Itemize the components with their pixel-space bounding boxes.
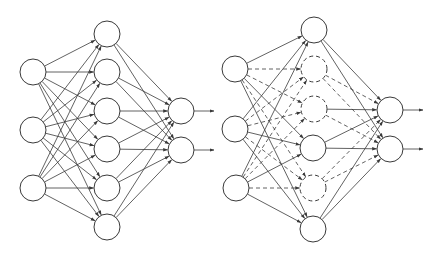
dropout-net-hidden-node-6 — [300, 216, 326, 242]
standard-net-edge-input2-hidden3 — [46, 114, 94, 126]
standard-net-hidden-node-2 — [94, 59, 120, 85]
dropout-net-hidden-node-1 — [301, 17, 327, 43]
dropout-net-hidden-node-5-dropped — [300, 175, 326, 201]
standard-net-hidden-node-6 — [94, 214, 120, 240]
dropout-net-input-node-2 — [222, 116, 248, 142]
dropout-net-edge-hidden6-output2 — [322, 159, 381, 220]
dropout-net-hidden-node-2-dropped — [301, 56, 327, 82]
standard-net-input-node-1 — [20, 59, 46, 85]
standard-net-edge-input1-hidden1 — [45, 40, 95, 66]
dropout-net-edge-input2-hidden3 — [248, 112, 301, 125]
dropout-net-hidden-node-3-dropped — [301, 96, 327, 122]
dropout-diagram: Standard neural net After applying dropo… — [0, 0, 435, 261]
dropout-net-edge-hidden6-output1 — [320, 121, 383, 218]
standard-net-output-node-1 — [168, 98, 194, 124]
dropout-net-edge-hidden1-output1 — [323, 39, 381, 100]
dropout-net-edge-input1-hidden1 — [247, 36, 302, 63]
nodes-layer — [20, 17, 403, 242]
standard-net-input-node-2 — [20, 117, 46, 143]
standard-net-edge-input3-hidden6 — [45, 194, 96, 221]
dropout-net-edge-input3-hidden6 — [247, 194, 301, 223]
dropout-net-edge-input2-hidden6 — [243, 139, 305, 218]
dropout-net-edge-input1-hidden4 — [244, 78, 303, 138]
standard-net-edge-input2-hidden4 — [46, 133, 94, 145]
dropout-net-hidden-node-4 — [300, 135, 326, 161]
standard-net-edge-hidden6-output1 — [114, 122, 174, 216]
standard-net-input-node-3 — [20, 175, 46, 201]
standard-net-hidden-node-5 — [94, 175, 120, 201]
dropout-net-edge-hidden2-output2 — [323, 78, 381, 139]
dropout-net-edge-input3-hidden3 — [245, 119, 304, 179]
standard-net-edge-hidden6-output2 — [116, 160, 172, 218]
dropout-net-output-node-1 — [377, 97, 403, 123]
standard-net-edge-hidden1-output1 — [116, 43, 172, 101]
dropout-net-edge-hidden4-output2 — [326, 148, 377, 149]
standard-net-hidden-node-1 — [94, 21, 120, 47]
standard-net-edge-hidden2-output1 — [119, 78, 170, 105]
network-canvas — [0, 0, 435, 261]
dropout-net-edge-input2-hidden4 — [248, 132, 300, 145]
standard-net-edge-input2-hidden6 — [41, 140, 99, 216]
standard-net-edge-input2-hidden1 — [41, 45, 99, 120]
dropout-net-output-node-2 — [377, 136, 403, 162]
standard-net-hidden-node-4 — [94, 136, 120, 162]
standard-net-hidden-node-3 — [94, 98, 120, 124]
dropout-net-edge-input1-hidden5 — [242, 80, 305, 177]
dropout-net-input-node-3 — [223, 175, 249, 201]
dropout-net-edge-input3-hidden1 — [242, 42, 308, 176]
dropout-net-edge-input2-hidden1 — [243, 41, 305, 119]
dropout-net-edge-input3-hidden2 — [243, 80, 306, 177]
dropout-net-input-node-1 — [222, 56, 248, 82]
dropout-net-edge-hidden3-output1 — [327, 109, 377, 110]
standard-net-output-node-2 — [168, 137, 194, 163]
